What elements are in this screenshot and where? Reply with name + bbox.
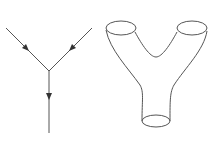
- figure: [0, 0, 208, 156]
- bottom-opening: [142, 115, 170, 127]
- feynman-vertex-diagram: [6, 28, 92, 133]
- pants-surface: [106, 21, 207, 127]
- arrow-icon-down: [46, 93, 52, 100]
- top-left-opening: [106, 21, 136, 35]
- top-right-opening: [177, 21, 207, 35]
- diagram-svg: [0, 0, 208, 156]
- outer-right-edge: [170, 31, 207, 121]
- crotch-edge: [135, 32, 177, 57]
- outer-left-edge: [106, 30, 143, 121]
